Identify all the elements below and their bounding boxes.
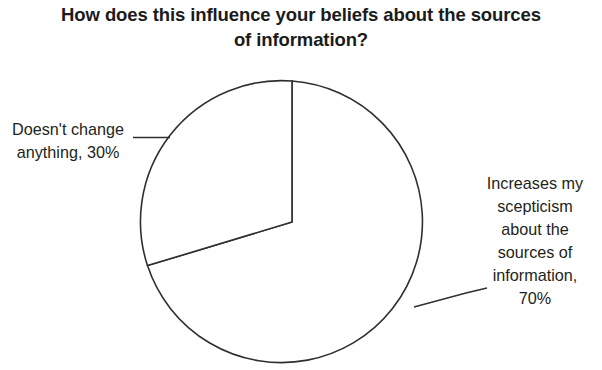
pie-label-right-line-6: 70% <box>468 287 602 310</box>
pie-label-left-line-1: Doesn't change <box>2 118 134 141</box>
pie-label-right-line-3: about the <box>468 218 602 241</box>
pie-label-left-line-2: anything, 30% <box>2 141 134 164</box>
pie-label-right-line-4: sources of <box>468 241 602 264</box>
pie-label-right-line-2: scepticism <box>468 195 602 218</box>
pie-label-right-line-5: information, <box>468 264 602 287</box>
pie-label-doesnt-change: Doesn't change anything, 30% <box>2 118 134 164</box>
pie-label-increases-scepticism: Increases my scepticism about the source… <box>468 172 602 310</box>
pie-chart-figure: How does this influence your beliefs abo… <box>0 0 602 370</box>
pie-label-right-line-1: Increases my <box>468 172 602 195</box>
